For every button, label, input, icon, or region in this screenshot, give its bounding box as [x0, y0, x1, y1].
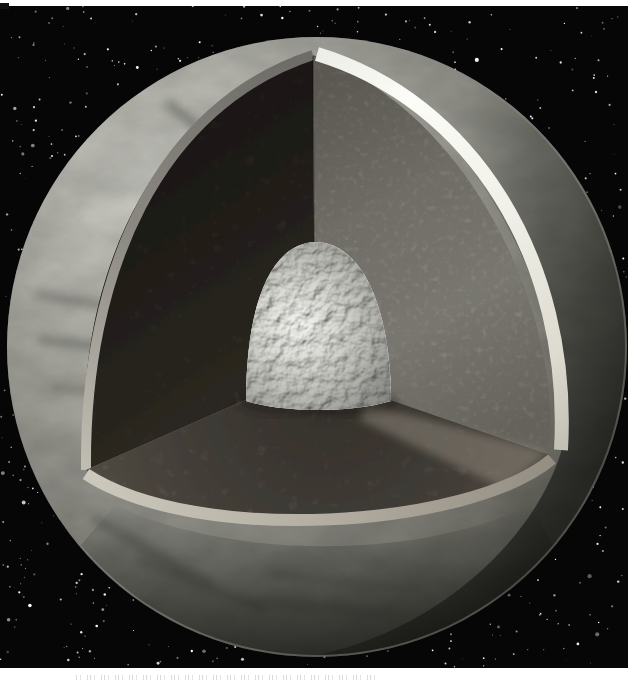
- star: [620, 189, 622, 191]
- star: [148, 644, 150, 646]
- star: [23, 596, 25, 598]
- star: [78, 656, 79, 657]
- star: [111, 60, 113, 62]
- star: [317, 26, 319, 28]
- star: [622, 258, 624, 260]
- star: [28, 503, 29, 504]
- star: [591, 36, 592, 37]
- moon-group: [7, 37, 627, 657]
- star: [191, 650, 193, 652]
- star: [212, 660, 214, 662]
- star: [124, 63, 126, 65]
- star: [176, 657, 178, 659]
- star: [49, 157, 51, 159]
- star: [16, 619, 17, 620]
- star: [31, 144, 35, 148]
- star: [106, 605, 107, 606]
- star: [198, 57, 199, 58]
- star: [550, 50, 551, 51]
- star: [64, 154, 66, 156]
- star: [61, 129, 63, 131]
- star: [64, 44, 65, 45]
- star: [2, 437, 3, 438]
- star: [0, 416, 2, 418]
- star: [199, 41, 201, 43]
- star: [483, 665, 484, 666]
- star: [78, 579, 80, 581]
- star: [387, 650, 389, 652]
- star: [357, 21, 359, 23]
- cut-corner-edge: [313, 56, 314, 242]
- star: [12, 140, 14, 142]
- star: [49, 136, 50, 137]
- star: [1, 471, 5, 475]
- star: [14, 626, 16, 628]
- star: [114, 65, 115, 66]
- star: [599, 506, 601, 508]
- star: [598, 59, 600, 61]
- star: [615, 173, 617, 175]
- star: [605, 526, 607, 528]
- star: [73, 47, 75, 49]
- star: [18, 591, 20, 593]
- cutoff-caption-smudge: [76, 675, 376, 680]
- star: [260, 14, 263, 17]
- star: [33, 129, 35, 131]
- star: [557, 623, 558, 624]
- star: [462, 658, 463, 659]
- star: [322, 31, 323, 32]
- star: [21, 564, 22, 565]
- star: [151, 50, 153, 52]
- star: [467, 38, 468, 39]
- star: [93, 602, 95, 604]
- star: [543, 649, 544, 650]
- star: [623, 271, 625, 273]
- star: [118, 61, 120, 63]
- star: [63, 26, 64, 27]
- star: [516, 631, 518, 633]
- star: [530, 116, 532, 118]
- star: [599, 535, 600, 536]
- star: [621, 575, 623, 577]
- star: [20, 583, 21, 584]
- star: [607, 75, 608, 76]
- star: [12, 414, 14, 416]
- star: [510, 29, 511, 30]
- star: [6, 213, 8, 215]
- star: [18, 249, 20, 251]
- star: [537, 99, 538, 100]
- star: [508, 594, 511, 597]
- star: [18, 57, 19, 58]
- star: [483, 657, 485, 659]
- star: [46, 543, 48, 545]
- star: [491, 14, 493, 16]
- star: [445, 662, 447, 664]
- star: [157, 662, 160, 665]
- star: [77, 652, 79, 654]
- star: [70, 623, 71, 624]
- star: [132, 599, 134, 601]
- star: [213, 52, 214, 53]
- star: [615, 457, 617, 459]
- star: [602, 550, 604, 552]
- star: [82, 6, 84, 8]
- star: [216, 657, 217, 658]
- star: [212, 45, 213, 46]
- star: [241, 658, 244, 661]
- star: [617, 580, 619, 582]
- star: [7, 618, 11, 622]
- star: [75, 586, 76, 587]
- star: [133, 630, 134, 631]
- star: [331, 20, 332, 21]
- star: [434, 31, 436, 33]
- star: [32, 44, 34, 46]
- star: [156, 69, 157, 70]
- star: [234, 646, 236, 648]
- star: [337, 8, 339, 10]
- star: [117, 83, 119, 85]
- star: [601, 210, 602, 211]
- star: [66, 646, 67, 647]
- star: [614, 124, 615, 125]
- star: [76, 582, 78, 584]
- star: [51, 155, 53, 157]
